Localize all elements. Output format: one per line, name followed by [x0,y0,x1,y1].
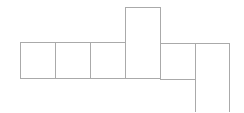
cell-5 [161,44,196,80]
cell-4-tall [126,8,161,79]
cell-1 [21,43,56,79]
cell-6-tall [196,44,230,113]
net-diagram [0,0,244,112]
cell-3 [91,43,126,79]
cell-2 [56,43,91,79]
